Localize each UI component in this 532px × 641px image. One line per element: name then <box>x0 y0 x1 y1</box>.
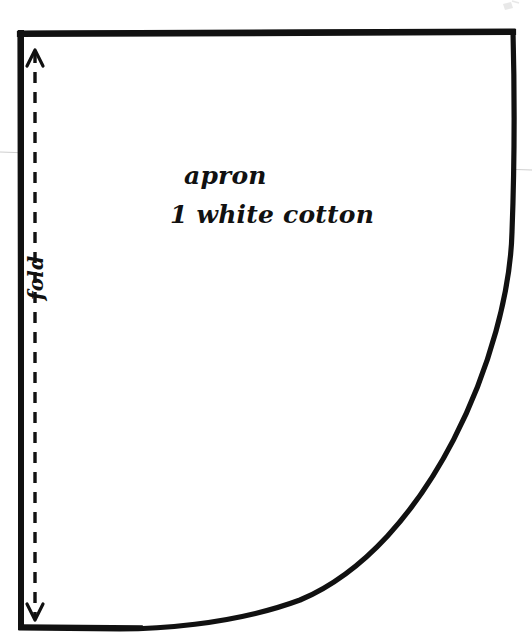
outline-corner-emphasis <box>20 32 513 34</box>
pattern-drawing <box>0 0 532 641</box>
pattern-page: apron 1 white cotton fold <box>0 0 532 641</box>
outline-bottom-edge-emphasis <box>21 627 140 628</box>
